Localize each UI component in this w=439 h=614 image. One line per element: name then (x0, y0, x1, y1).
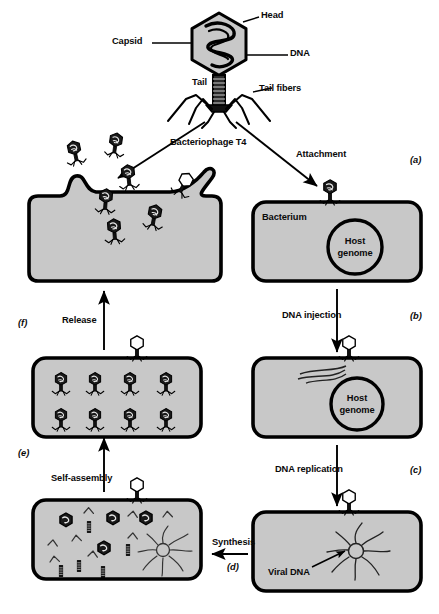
bacterium-cell-injection (253, 358, 421, 437)
label-tail-fibers: Tail fibers (259, 84, 301, 94)
label-bacterium: Bacterium (262, 213, 307, 223)
phage-anatomy-inset (152, 13, 288, 128)
label-synthesis: Synthesis (212, 538, 255, 548)
bacterium-cell-synthesis (33, 500, 201, 579)
host-genome-circle (331, 378, 383, 430)
bacterium-cell-assembled (33, 358, 201, 437)
label-capsid: Capsid (112, 37, 142, 47)
lytic-cycle-diagram (0, 0, 439, 614)
label-host-genome-b-line1: Host (347, 394, 367, 404)
label-host-genome-line1: Host (345, 237, 365, 247)
stage-id-f: (f) (18, 318, 27, 328)
label-attachment: Attachment (296, 150, 346, 160)
label-dna: DNA (290, 49, 310, 59)
label-self-assembly: Self-assembly (51, 474, 112, 484)
stage-id-e: (e) (18, 448, 29, 458)
host-genome-circle (328, 220, 382, 274)
figure-canvas: Head Capsid DNA Tail Tail fibers Bacteri… (0, 0, 439, 614)
label-host-genome-b-line2: genome (339, 406, 374, 416)
bacterium-cell-replication (253, 512, 421, 591)
lysed-bacterium-cell (29, 169, 221, 281)
label-release: Release (62, 316, 96, 326)
stage-id-a: (a) (410, 155, 421, 165)
label-viral-dna: Viral DNA (268, 568, 310, 578)
label-head: Head (261, 11, 283, 21)
label-virus-name: Bacteriophage T4 (170, 138, 246, 148)
stage-id-d: (d) (227, 562, 239, 572)
stage-id-c: (c) (410, 465, 421, 475)
label-dna-replication: DNA replication (275, 465, 343, 475)
label-dna-injection: DNA injection (282, 311, 341, 321)
label-host-genome-line2: genome (337, 249, 372, 259)
label-tail: Tail (192, 78, 207, 88)
stage-id-b: (b) (410, 311, 422, 321)
